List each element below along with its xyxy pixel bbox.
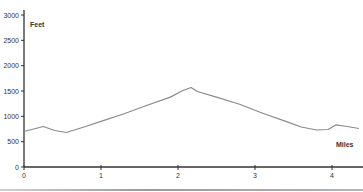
x-axis-title: Miles <box>336 141 354 148</box>
x-tick-label: 4 <box>330 172 334 179</box>
x-tick-label: 3 <box>253 172 257 179</box>
y-tick-label: 0 <box>15 164 19 171</box>
y-tick-label: 3000 <box>3 12 19 19</box>
x-tick-label: 1 <box>99 172 103 179</box>
bottom-divider <box>0 189 363 191</box>
y-tick-label: 2500 <box>3 37 19 44</box>
y-axis-title: Feet <box>30 21 45 28</box>
y-axis: 050010001500200025003000 <box>3 10 24 171</box>
x-tick-label: 0 <box>22 172 26 179</box>
x-axis: 01234 <box>22 165 363 179</box>
elevation-line <box>24 88 359 133</box>
x-tick-label: 2 <box>176 172 180 179</box>
y-tick-label: 1500 <box>3 88 19 95</box>
y-tick-label: 500 <box>7 138 19 145</box>
y-tick-label: 2000 <box>3 62 19 69</box>
elevation-chart: 050010001500200025003000 01234 Feet Mile… <box>0 0 363 192</box>
y-tick-label: 1000 <box>3 113 19 120</box>
